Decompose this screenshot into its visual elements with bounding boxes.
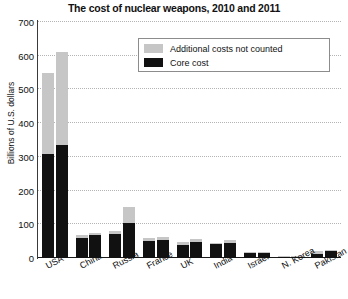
bar-segment-core [42,154,54,259]
bar-group [72,22,106,258]
legend-swatch-core-icon [144,58,163,67]
bar-chart: The cost of nuclear weapons, 2010 and 20… [0,0,348,299]
bar-segment-core [177,245,189,258]
bar-group [38,22,72,258]
y-tick-label: 600 [2,50,34,61]
bar-segment-core [76,238,88,258]
legend-item-core: Core cost [144,56,324,69]
y-tick-label: 0 [2,253,34,264]
y-tick-label: 400 [2,118,34,129]
bar-segment-core [210,244,222,258]
y-tick-label: 500 [2,84,34,95]
bar [42,73,54,258]
bar-segment-additional [210,243,222,244]
bar-segment-additional [157,237,169,240]
bar-segment-additional [76,235,88,238]
legend-item-additional: Additional costs not counted [144,42,324,55]
bar-segment-core [56,145,68,258]
y-tick-label: 200 [2,185,34,196]
bar [76,235,88,258]
bar [177,242,189,258]
bar-segment-additional [190,239,202,242]
bar-segment-additional [224,240,236,243]
chart-legend: Additional costs not counted Core cost [138,38,330,72]
x-axis-tick-labels: USAChinaRussiaFranceUKIndiaIsraelN. Kore… [38,258,341,299]
x-tick-label: UK [179,256,195,271]
bar [190,239,202,258]
bar-group [105,22,139,258]
bar [143,238,155,258]
bar [109,231,121,258]
bar-segment-additional [143,238,155,241]
bar-segment-additional [89,233,101,235]
legend-swatch-additional-icon [144,44,163,53]
y-tick-label: 100 [2,219,34,230]
bar-segment-additional [56,52,68,145]
chart-title: The cost of nuclear weapons, 2010 and 20… [0,2,348,14]
bar-segment-additional [109,231,121,234]
y-tick-label: 700 [2,17,34,28]
bar-segment-core [143,241,155,258]
bar-segment-additional [177,242,189,244]
bar-segment-additional [42,73,54,154]
bar [210,243,222,258]
bar-segment-core [190,242,202,258]
y-axis-tick-labels: 0100200300400500600700 [0,22,34,258]
bar [56,52,68,258]
legend-label-core: Core cost [170,58,209,68]
y-tick-label: 300 [2,151,34,162]
bar-segment-core [109,234,121,258]
bar-segment-additional [123,207,135,222]
legend-label-additional: Additional costs not counted [170,44,283,54]
